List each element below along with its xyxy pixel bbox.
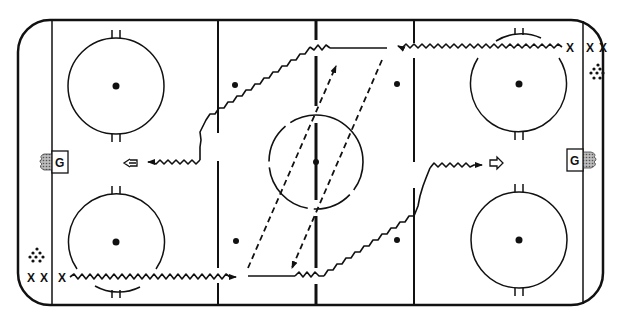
player-x-bottom-left-queue-1: X xyxy=(27,271,35,285)
rink-boards xyxy=(18,20,603,305)
neutral-dot-bottom-left xyxy=(233,238,239,244)
skate-path-top-wavy-right xyxy=(398,44,562,48)
pass-dashed-up xyxy=(248,66,336,268)
net-left-icon xyxy=(40,154,52,170)
neutral-dot-bottom-right xyxy=(394,237,400,243)
skate-path-bottom-wavy-left xyxy=(70,274,236,279)
player-x-bottom-left-start: X xyxy=(58,271,66,285)
goalie-label-left: G xyxy=(55,156,64,170)
faceoff-dot-top-left xyxy=(113,83,120,90)
goalie-label-right: G xyxy=(570,154,579,168)
skate-path-top-wavy-center xyxy=(310,45,330,50)
faceoff-dot-bottom-left xyxy=(113,239,120,246)
skate-path-top-wavy-exit xyxy=(148,160,200,164)
faceoff-dot-top-right xyxy=(516,81,523,88)
goal-left: G xyxy=(40,151,68,173)
net-right-icon xyxy=(583,152,596,168)
skate-path-bottom-wavy-exit xyxy=(430,163,482,168)
neutral-dot-top-left xyxy=(232,82,238,88)
center-dot xyxy=(313,159,319,165)
open-arrow-left-icon xyxy=(124,159,137,167)
faceoff-dot-bottom-right xyxy=(516,237,523,244)
player-x-top-right-start: X xyxy=(566,41,574,55)
pass-dashed-down xyxy=(292,60,382,268)
skate-path-top-diagonal xyxy=(200,47,310,160)
skate-path-bottom-wavy-center xyxy=(295,272,324,277)
player-x-bottom-left-queue-2: X xyxy=(40,271,48,285)
open-arrow-right-icon xyxy=(490,157,503,169)
hockey-rink-diagram: G G X X X X X X xyxy=(0,0,634,323)
neutral-dot-top-right xyxy=(394,81,400,87)
player-x-top-right-queue-1: X xyxy=(586,41,594,55)
player-x-top-right-queue-2: X xyxy=(599,41,607,55)
goal-right: G xyxy=(567,149,596,171)
puck-pile-bottom-left-icon xyxy=(28,247,44,262)
